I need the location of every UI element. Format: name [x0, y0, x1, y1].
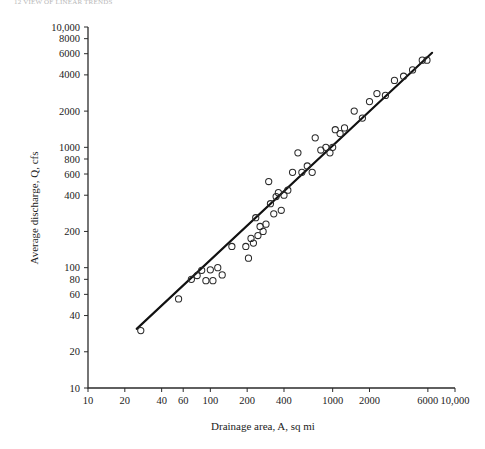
data-points — [138, 57, 430, 334]
x-tick-label: 10,000 — [441, 395, 470, 406]
y-tick-label: 80 — [70, 274, 81, 285]
y-tick-label: 400 — [64, 190, 80, 201]
x-tick-label: 20 — [120, 395, 131, 406]
tick-marks — [84, 27, 455, 392]
x-tick-label: 400 — [276, 395, 292, 406]
figure-container: 12 VIEW OF LINEAR TRENDS 102040601002004… — [0, 0, 485, 449]
y-tick-label: 20 — [70, 346, 81, 357]
y-tick-label: 8000 — [59, 33, 80, 44]
x-tick-label: 200 — [239, 395, 255, 406]
x-tick-label: 60 — [178, 395, 189, 406]
data-point — [374, 90, 380, 96]
y-tick-label: 200 — [64, 226, 80, 237]
data-point — [207, 267, 213, 273]
y-tick-label: 10,000 — [51, 22, 80, 33]
data-point — [271, 211, 277, 217]
data-point — [391, 77, 397, 83]
y-tick-label: 60 — [70, 289, 81, 300]
data-point — [260, 228, 266, 234]
data-point — [312, 135, 318, 141]
y-tick-label: 600 — [64, 169, 80, 180]
data-point — [295, 150, 301, 156]
data-point — [203, 278, 209, 284]
y-tick-label: 800 — [64, 154, 80, 165]
x-axis-title: Drainage area, A, sq mi — [211, 420, 315, 432]
data-point — [175, 296, 181, 302]
data-point — [351, 108, 357, 114]
data-point — [366, 98, 372, 104]
y-tick-label: 4000 — [59, 69, 80, 80]
x-tick-label: 1000 — [322, 395, 343, 406]
x-tick-label: 100 — [202, 395, 218, 406]
y-tick-label: 2000 — [59, 106, 80, 117]
data-point — [245, 255, 251, 261]
data-point — [229, 243, 235, 249]
data-point — [278, 207, 284, 213]
data-point — [309, 169, 315, 175]
x-tick-label: 10 — [83, 395, 94, 406]
x-tick-label: 6000 — [417, 395, 438, 406]
data-point — [289, 169, 295, 175]
x-tick-label: 40 — [156, 395, 167, 406]
data-point — [210, 278, 216, 284]
axes — [88, 27, 455, 388]
y-tick-label: 40 — [70, 310, 81, 321]
data-point — [138, 327, 144, 333]
data-point — [243, 243, 249, 249]
x-tick-label: 2000 — [359, 395, 380, 406]
data-point — [219, 272, 225, 278]
scatter-plot: 1020406010020040010002000600010,00010204… — [0, 0, 485, 449]
y-axis-title: Average discharge, Q, cfs — [28, 152, 40, 265]
y-tick-label: 100 — [64, 262, 80, 273]
data-point — [323, 144, 329, 150]
data-point — [266, 178, 272, 184]
axis-spines — [88, 27, 455, 388]
data-point — [215, 265, 221, 271]
data-point — [263, 221, 269, 227]
y-tick-label: 10 — [70, 383, 81, 394]
data-point — [337, 131, 343, 137]
data-point — [341, 125, 347, 131]
y-tick-label: 1000 — [59, 142, 80, 153]
y-tick-label: 6000 — [59, 48, 80, 59]
